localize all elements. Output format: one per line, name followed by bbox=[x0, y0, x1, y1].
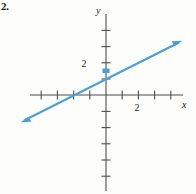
line-segment bbox=[24, 43, 179, 121]
x-axis-label: x bbox=[181, 99, 187, 110]
graph-figure: 2. bbox=[0, 0, 196, 194]
coordinate-plane: y x 2 2 bbox=[0, 0, 196, 194]
y-axis-label: y bbox=[95, 5, 101, 16]
y-tick-label-2: 2 bbox=[82, 58, 87, 69]
x-tick-label-2: 2 bbox=[135, 102, 140, 113]
plotted-line bbox=[21, 41, 183, 123]
y-intercept-marker bbox=[103, 69, 110, 74]
